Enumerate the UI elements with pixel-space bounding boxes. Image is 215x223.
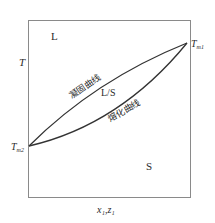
region-liquid-label: L <box>51 30 58 42</box>
melting-curve-label: 熔化曲线 <box>106 96 143 124</box>
region-solid-label: S <box>146 160 152 172</box>
y-axis-label: T <box>19 56 26 68</box>
tm1-label: Tm1 <box>191 38 204 50</box>
x-axis-label: x₁,z₁ <box>96 204 115 215</box>
plot-frame <box>29 21 191 198</box>
tm2-label: Tm2 <box>11 141 24 153</box>
freezing-curve-label: 凝固曲线 <box>67 71 103 101</box>
phase-diagram: L L/S S T x₁,z₁ Tm1 Tm2 凝固曲线 熔化曲线 <box>0 0 215 223</box>
region-two-phase-label: L/S <box>101 87 115 98</box>
